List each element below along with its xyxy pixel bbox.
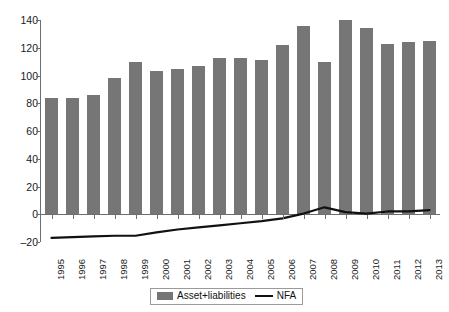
bar-2008 [318, 62, 331, 215]
bar-2006 [276, 45, 289, 214]
x-axis-tickmark [430, 215, 431, 219]
y-axis-tickmark [36, 76, 40, 77]
x-axis-tickmark [283, 215, 284, 219]
bar-1995 [45, 98, 58, 215]
y-axis-tick-60: 60 [4, 126, 38, 137]
chart-legend: Asset+liabilities NFA [150, 288, 303, 305]
x-axis-tickmark [94, 215, 95, 219]
x-axis-tickmark [388, 215, 389, 219]
x-axis-tickmark [325, 215, 326, 219]
x-axis-tickmark [304, 215, 305, 219]
x-axis-label-2006: 2006 [287, 259, 297, 280]
x-axis-tickmark [199, 215, 200, 219]
bar-series-asset-liabilities [0, 0, 449, 312]
x-axis-tickmark [241, 215, 242, 219]
x-axis-label-2010: 2010 [371, 259, 381, 280]
bar-2001 [171, 69, 184, 215]
x-axis-label-2004: 2004 [245, 259, 255, 280]
y-axis-tick-80: 80 [4, 98, 38, 109]
legend-label-asset-liabilities: Asset+liabilities [177, 291, 246, 301]
x-axis-label-1997: 1997 [98, 259, 108, 280]
legend-item-nfa: NFA [255, 291, 296, 301]
x-axis-tickmark [220, 215, 221, 219]
x-axis-label-2000: 2000 [161, 259, 171, 280]
bar-2004 [234, 58, 247, 214]
legend-item-asset-liabilities: Asset+liabilities [157, 291, 246, 301]
bar-2010 [360, 28, 373, 214]
bar-2012 [402, 42, 415, 214]
y-axis-tickmark [36, 131, 40, 132]
bar-2007 [297, 26, 310, 215]
x-axis-label-2008: 2008 [329, 259, 339, 280]
x-axis-label-2007: 2007 [308, 259, 318, 280]
x-axis-label-1998: 1998 [119, 259, 129, 280]
y-axis-tickmark [36, 103, 40, 104]
x-axis-label-2012: 2012 [413, 259, 423, 280]
x-axis-tickmark [157, 215, 158, 219]
line-swatch-icon [255, 295, 273, 298]
bar-1996 [66, 98, 79, 214]
x-axis-label-1999: 1999 [140, 259, 150, 280]
x-axis-tickmark [115, 215, 116, 219]
x-axis-tickmark [136, 215, 137, 219]
x-axis-label-1995: 1995 [56, 259, 66, 280]
x-axis-tickmark [367, 215, 368, 219]
bar-2000 [150, 71, 163, 214]
x-axis-tickmark [409, 215, 410, 219]
y-axis-tickmark [36, 159, 40, 160]
bar-2009 [339, 20, 352, 214]
y-axis-tickmark [36, 242, 40, 243]
nfa-polyline [52, 207, 430, 238]
x-axis-label-2001: 2001 [182, 259, 192, 280]
chart-container: 140120100806040200–20 199519961997199819… [0, 0, 449, 312]
x-axis-label-2011: 2011 [392, 260, 402, 280]
y-axis-tickmark [36, 214, 40, 215]
y-axis-line [40, 20, 41, 242]
x-axis-label-2009: 2009 [350, 259, 360, 280]
x-axis-tickmark [52, 215, 53, 219]
y-axis-tick-0: 0 [4, 209, 38, 220]
y-axis-tick-40: 40 [4, 154, 38, 165]
x-axis-label-2005: 2005 [266, 259, 276, 280]
x-axis-label-1996: 1996 [77, 259, 87, 280]
x-axis-tickmark [346, 215, 347, 219]
legend-label-nfa: NFA [277, 291, 296, 301]
bar-2003 [213, 58, 226, 214]
y-axis-tick-140: 140 [4, 15, 38, 26]
y-axis-tick--20: –20 [4, 237, 38, 248]
bar-2002 [192, 66, 205, 214]
bar-swatch-icon [157, 292, 173, 300]
x-axis-tickmark [178, 215, 179, 219]
y-axis-tick-labels: 140120100806040200–20 [0, 0, 38, 312]
x-axis-label-2013: 2013 [434, 259, 444, 280]
y-axis-tick-120: 120 [4, 43, 38, 54]
line-series-nfa [0, 0, 449, 312]
bar-2011 [381, 44, 394, 215]
y-axis-tick-20: 20 [4, 181, 38, 192]
y-axis-tick-100: 100 [4, 70, 38, 81]
bar-2005 [255, 60, 268, 214]
bar-1998 [108, 78, 121, 214]
x-axis-tick-labels: 1995199619971998199920002001200220032004… [0, 0, 449, 312]
y-axis-tickmark [36, 48, 40, 49]
bar-2013 [423, 41, 436, 214]
bar-1999 [129, 62, 142, 215]
x-axis-zero-line [40, 214, 440, 215]
x-axis-tickmark [73, 215, 74, 219]
y-axis-tickmark [36, 20, 40, 21]
x-axis-tickmark [262, 215, 263, 219]
x-axis-label-2002: 2002 [203, 259, 213, 280]
bar-1997 [87, 95, 100, 214]
x-axis-label-2003: 2003 [224, 259, 234, 280]
y-axis-tickmark [36, 187, 40, 188]
